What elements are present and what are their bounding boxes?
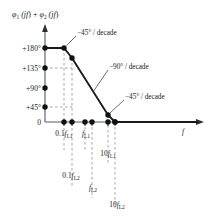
marker-axis-01fL2 <box>69 119 74 124</box>
x-tick-label-01fL1-sub: L1 <box>67 133 73 139</box>
marker-axis-fL1 <box>82 119 87 124</box>
marker-axis-fL2 <box>89 119 94 124</box>
y-tick-label-45: +45° <box>26 103 41 112</box>
y-tick-label-0: 0 <box>37 118 41 127</box>
leader-slope-top <box>67 36 77 46</box>
x-tick-label-fL2-sub: L2 <box>91 187 97 193</box>
x-tick-label-01fL2: 0.1fL2 <box>62 171 80 181</box>
x-tick-label-10fL1-sub: L1 <box>110 153 116 159</box>
phase-plot-svg: φ1 (jf) + φ2 (jf) f +180° +135° +90° +45… <box>0 0 214 218</box>
marker-y-45 <box>42 104 47 109</box>
x-tick-label-10fL1: 10fL1 <box>100 149 116 159</box>
marker-curve-01fL1 <box>61 45 66 50</box>
leader-slope-bottom <box>110 100 124 113</box>
y-axis-arrowhead <box>42 24 48 32</box>
marker-axis-10fL1 <box>105 119 110 124</box>
y-axis-title: φ1 (jf) + φ2 (jf) <box>12 10 59 20</box>
y-tick-label-135: +135° <box>22 64 41 73</box>
x-tick-label-10fL2-sub: L2 <box>119 204 125 210</box>
leader-slope-middle <box>93 70 108 92</box>
annotation-slope-top: −45° / decade <box>77 29 117 37</box>
x-tick-label-01fL2-main: 0.1 <box>62 171 72 180</box>
bode-phase-plot-figure: φ1 (jf) + φ2 (jf) f +180° +135° +90° +45… <box>0 0 214 218</box>
x-axis-title: f <box>182 127 185 136</box>
marker-curve-10fL1 <box>105 112 110 117</box>
x-tick-label-fL1: fL1 <box>82 129 90 139</box>
annotation-slope-middle: −90° / decade <box>109 63 149 71</box>
annotation-leaders <box>67 36 125 113</box>
marker-y-135 <box>42 65 47 70</box>
marker-axis-10fL2 <box>112 119 117 124</box>
x-tick-label-10fL2: 10fL2 <box>109 200 125 210</box>
x-tick-label-01fL2-sub: L2 <box>74 175 80 181</box>
axis-markers <box>61 119 117 124</box>
y-tick-label-90: +90° <box>26 84 41 93</box>
annotation-slope-bottom: −45° / decade <box>125 93 165 101</box>
y-tick-label-180: +180° <box>22 44 41 53</box>
axes-group <box>42 24 204 126</box>
marker-curve-01fL2 <box>69 55 74 60</box>
marker-axis-01fL1 <box>61 119 66 124</box>
marker-y-90 <box>42 85 47 90</box>
marker-y-180 <box>42 45 47 50</box>
phase-curve <box>45 48 198 122</box>
x-tick-label-fL1-sub: L1 <box>84 133 90 139</box>
x-tick-label-01fL1-main: 0.1 <box>55 129 65 138</box>
x-tick-label-fL2: fL2 <box>89 183 97 193</box>
x-tick-label-01fL1: 0.1fL1 <box>55 129 73 139</box>
y-axis-title-paren2: ) <box>56 10 59 19</box>
y-axis-title-plus: + <box>31 10 40 19</box>
